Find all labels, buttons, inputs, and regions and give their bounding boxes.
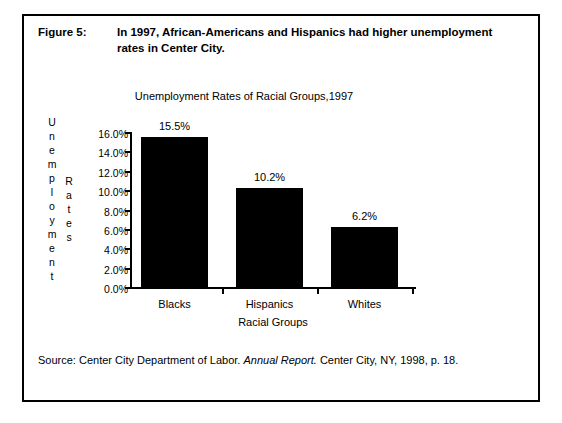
y-axis-tick-mark [125,171,132,173]
y-axis-title-letter: U [45,115,59,129]
y-axis-title-letter: e [62,216,76,230]
y-axis-title-letter: m [45,157,59,171]
x-axis-category-label: Whites [317,298,412,310]
y-axis-tick-mark [125,248,132,250]
source-publication: Annual Report. [243,354,316,366]
bar-value-label: 10.2% [236,171,303,183]
y-axis-title-unemployment: Unemployment [45,115,59,283]
chart-area: Unemployment Rates of Racial Groups,1997… [24,16,542,404]
x-axis-tick-mark [412,287,414,294]
bar-whites [331,227,398,287]
y-axis-tick-label: 4.0% [76,244,128,256]
x-axis-tick-mark [317,287,319,294]
y-axis-tick-mark [125,268,132,270]
x-axis-line [130,287,416,289]
x-axis-category-label: Blacks [127,298,222,310]
y-axis-title-letter: n [45,129,59,143]
y-axis-tick-label: 14.0% [76,147,128,159]
y-axis-tick-mark [125,151,132,153]
y-axis-tick-label: 16.0% [76,128,128,140]
y-axis-tick-mark [125,190,132,192]
y-axis-title-letter: t [62,202,76,216]
x-axis-title: Racial Groups [130,316,416,328]
y-axis-title-letter: a [62,188,76,202]
source-tail: Center City, NY, 1998, p. 18. [317,354,458,366]
y-axis-tick-label: 6.0% [76,225,128,237]
y-axis-title-letter: l [45,185,59,199]
bar-value-label: 15.5% [141,120,208,132]
bar-series [130,126,416,287]
y-axis-title-letter: o [45,199,59,213]
bar-value-label: 6.2% [331,210,398,222]
y-axis-tick-label: 12.0% [76,167,128,179]
y-axis-title-rates: Rates [62,174,76,244]
y-axis-tick-mark [125,229,132,231]
y-axis-tick-label: 8.0% [76,206,128,218]
y-axis-tick-label: 2.0% [76,264,128,276]
plot-area: Racial Groups 15.5%Blacks10.2%Hispanics6… [130,126,420,288]
y-axis-title-letter: y [45,213,59,227]
source-lead: Source: Center City Department of Labor. [38,354,243,366]
bar-hispanics [236,188,303,287]
y-axis-title-letter: p [45,171,59,185]
y-axis-title-letter: R [62,174,76,188]
y-axis-title-letter: s [62,230,76,244]
source-note: Source: Center City Department of Labor.… [38,352,524,369]
y-axis-tick-mark [125,132,132,134]
y-axis-tick-mark [125,287,132,289]
figure-frame: Figure 5: In 1997, African-Americans and… [22,14,540,402]
y-axis-tick-label: 0.0% [76,283,128,295]
y-axis-tick-mark [125,210,132,212]
x-axis-category-label: Hispanics [222,298,317,310]
y-axis-title-letter: n [45,255,59,269]
y-axis-title-letter: e [45,241,59,255]
y-axis-title-letter: e [45,143,59,157]
bar-blacks [141,137,208,287]
y-axis-title-letter: m [45,227,59,241]
y-axis-tick-label: 10.0% [76,186,128,198]
y-axis-title-letter: t [45,269,59,283]
x-axis-tick-mark [222,287,224,294]
chart-title: Unemployment Rates of Racial Groups,1997 [24,90,464,102]
